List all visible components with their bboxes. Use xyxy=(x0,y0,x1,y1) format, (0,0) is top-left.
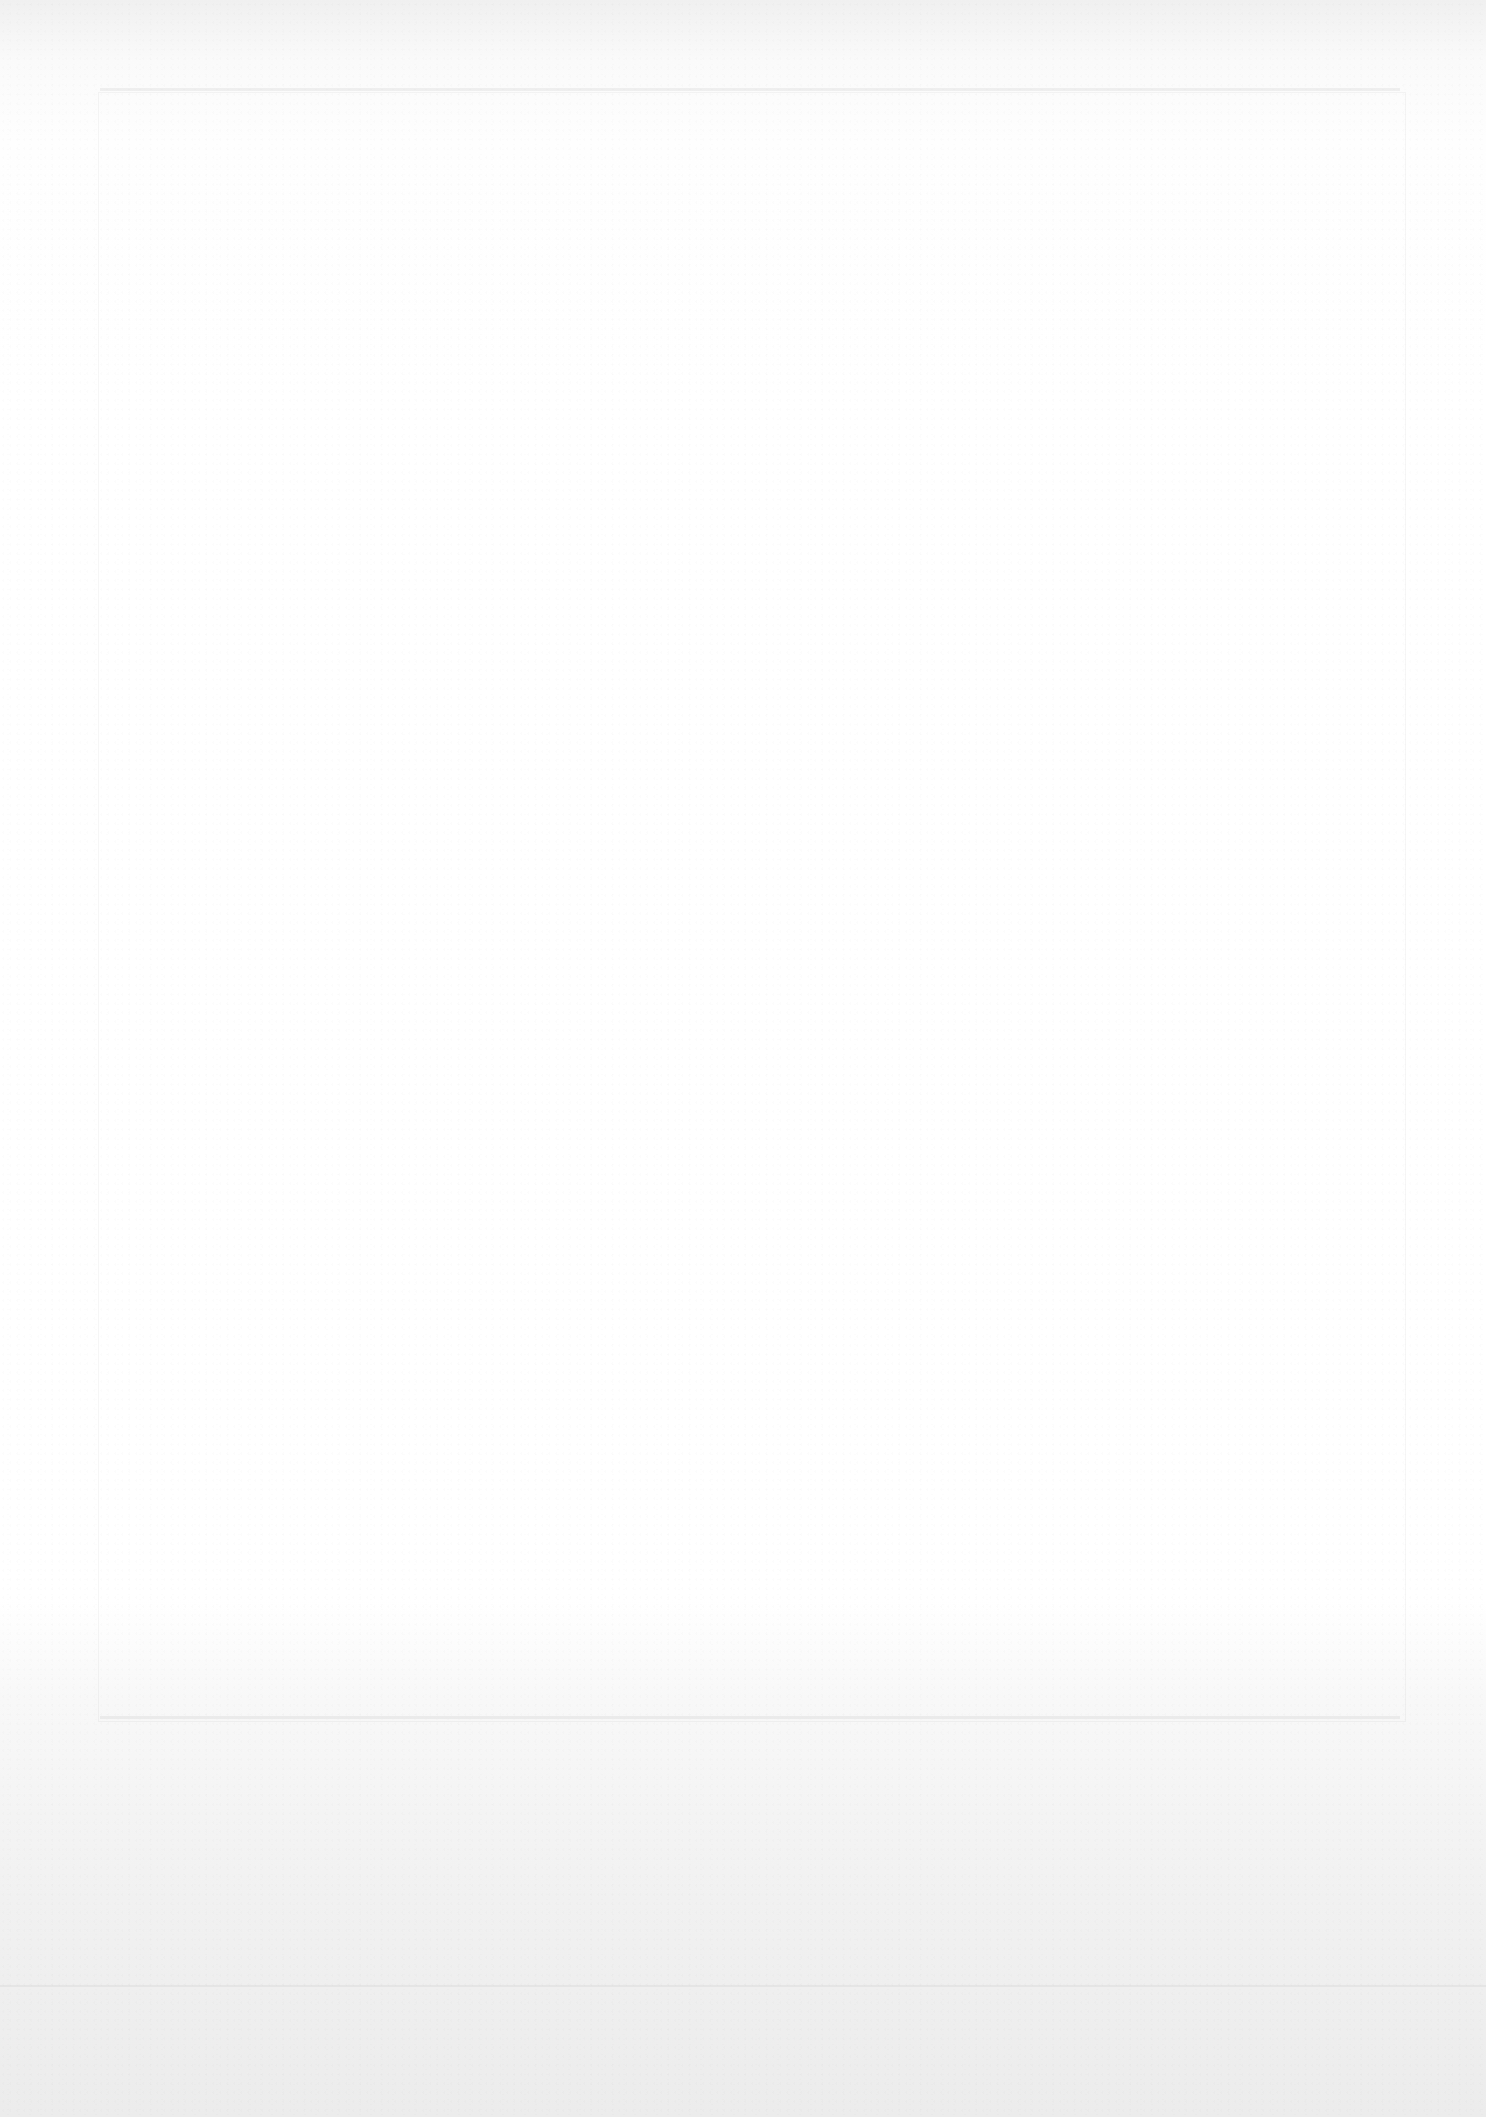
faint-page-border xyxy=(98,92,1406,1722)
scan-edge-band xyxy=(0,1985,1486,1987)
show-through-line-bottom xyxy=(100,1716,1400,1719)
blank-scanned-page xyxy=(0,0,1486,2117)
show-through-line-top xyxy=(100,88,1400,91)
